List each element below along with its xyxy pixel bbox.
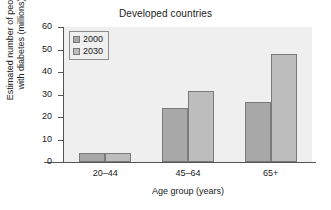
y-axis-tick bbox=[58, 140, 63, 141]
chart-legend: 20002030 bbox=[69, 31, 109, 60]
legend-item-2000: 2000 bbox=[73, 34, 103, 45]
chart-figure: Developed countries Estimated number of … bbox=[0, 0, 331, 210]
bar-65+-2000 bbox=[245, 102, 271, 162]
y-axis-tick bbox=[58, 27, 63, 28]
y-axis-tick bbox=[58, 162, 63, 163]
y-axis-tick bbox=[58, 95, 63, 96]
bar-4564-2030 bbox=[188, 91, 214, 162]
x-axis-category-label: 45–64 bbox=[148, 168, 228, 178]
x-axis-category-label: 20–44 bbox=[65, 168, 145, 178]
bar-2044-2000 bbox=[79, 153, 105, 162]
y-axis-label-line-1: Estimated number of people bbox=[5, 0, 16, 100]
legend-swatch-icon bbox=[73, 36, 80, 43]
y-axis-tick-label: 20 bbox=[26, 112, 52, 121]
legend-item-2030: 2030 bbox=[73, 46, 103, 57]
bar-4564-2000 bbox=[162, 108, 188, 162]
chart-title: Developed countries bbox=[0, 8, 331, 19]
y-axis-tick-label: 60 bbox=[26, 22, 52, 31]
y-axis-tick bbox=[58, 50, 63, 51]
y-axis-tick-label: 30 bbox=[26, 90, 52, 99]
x-axis-label: Age group (years) bbox=[64, 186, 312, 196]
x-axis-category-label: 65+ bbox=[231, 168, 311, 178]
bar-65+-2030 bbox=[271, 54, 297, 162]
y-axis-tick bbox=[58, 117, 63, 118]
legend-swatch-icon bbox=[73, 48, 80, 55]
bar-2044-2030 bbox=[105, 153, 131, 162]
legend-label: 2000 bbox=[83, 35, 103, 44]
y-axis-spine bbox=[63, 27, 64, 162]
y-axis-tick-label: 0 bbox=[26, 157, 52, 166]
x-axis-spine bbox=[44, 162, 316, 163]
y-axis-tick-label: 40 bbox=[26, 67, 52, 76]
y-axis-tick-label: 50 bbox=[26, 45, 52, 54]
y-axis-tick-label: 10 bbox=[26, 135, 52, 144]
y-axis-tick bbox=[58, 72, 63, 73]
legend-label: 2030 bbox=[83, 47, 103, 56]
